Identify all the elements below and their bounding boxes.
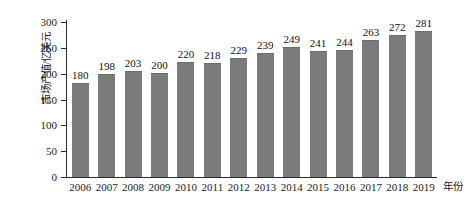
plot-area: 1801982032002202182292392492412442632722…: [67, 22, 437, 177]
bar-chart-figure: 050100150200250300 180198203200220218229…: [0, 0, 476, 211]
bar[interactable]: [389, 35, 406, 177]
bar[interactable]: [177, 62, 194, 177]
y-axis-tick-label: 50: [29, 146, 57, 157]
bar[interactable]: [257, 53, 274, 177]
bar[interactable]: [151, 73, 168, 177]
bar-value-label: 200: [145, 60, 175, 71]
bar[interactable]: [362, 40, 379, 177]
bar[interactable]: [125, 71, 142, 177]
bar[interactable]: [415, 31, 432, 177]
y-axis-title: 市场产值/亿美元: [41, 8, 53, 128]
bar[interactable]: [336, 50, 353, 177]
bar-value-label: 281: [409, 18, 439, 29]
bar[interactable]: [204, 63, 221, 177]
x-axis-line: [66, 177, 437, 178]
bar[interactable]: [72, 83, 89, 177]
bar[interactable]: [283, 47, 300, 177]
bar[interactable]: [230, 58, 247, 177]
x-axis-title: 年份: [443, 181, 463, 193]
y-axis-tick: [61, 177, 67, 178]
x-axis-tick-label: 2019: [409, 181, 439, 193]
bar[interactable]: [98, 74, 115, 177]
bar-value-label: 244: [330, 37, 360, 48]
bar[interactable]: [310, 51, 327, 177]
y-axis-tick-label: 0: [29, 172, 57, 183]
